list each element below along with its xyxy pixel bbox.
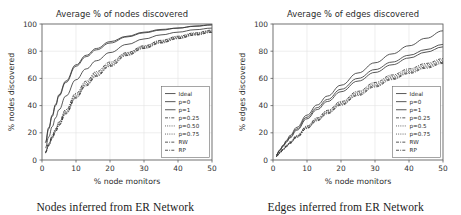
chart-title: Average % of edges discovered	[287, 9, 419, 19]
y-tick-label: 40	[258, 101, 268, 110]
legend-label: p=1	[409, 107, 421, 114]
x-tick-label: 0	[40, 164, 45, 173]
y-tick-label: 60	[28, 74, 38, 83]
y-tick-label: 40	[28, 101, 38, 110]
y-axis-label: % nodes discovered	[7, 53, 16, 131]
x-tick-label: 30	[370, 164, 380, 173]
chart-title: Average % of nodes discovered	[56, 9, 188, 19]
panel-caption: Nodes inferred from ER Network	[0, 201, 231, 213]
panel-edges: Average % of edges discovered 0102030405…	[231, 0, 461, 215]
x-tick-label: 50	[207, 164, 217, 173]
panel-caption: Edges inferred from ER Network	[231, 201, 461, 213]
legend-label: RW	[179, 139, 189, 145]
y-tick-label: 20	[28, 128, 38, 137]
legend-label: p=0.25	[409, 115, 430, 122]
y-tick-label: 20	[258, 128, 268, 137]
x-tick-label: 20	[336, 164, 346, 173]
legend-label: p=0	[409, 99, 421, 106]
y-tick-label: 100	[253, 20, 267, 29]
legend-label: p=0.75	[409, 131, 430, 138]
y-tick-label: 100	[23, 20, 37, 29]
chart-edges: Average % of edges discovered 0102030405…	[231, 0, 461, 190]
legend-label: p=1	[179, 107, 191, 114]
x-tick-label: 10	[71, 164, 81, 173]
legend-label: p=0	[179, 99, 191, 106]
legend-label: RW	[409, 139, 419, 145]
plot-region-edges: 01020304050020406080100 Idealp=0p=1p=0.2…	[253, 20, 447, 173]
legend-label: RP	[179, 147, 187, 153]
x-tick-label: 20	[105, 164, 115, 173]
legend[interactable]: Idealp=0p=1p=0.25p=0.50p=0.75RWRP	[162, 86, 210, 157]
legend-label: p=0.25	[179, 115, 200, 122]
y-axis-label: % edges discovered	[238, 53, 247, 131]
legend[interactable]: Idealp=0p=1p=0.25p=0.5p=0.75RWRP	[392, 86, 440, 157]
x-tick-label: 10	[302, 164, 312, 173]
x-axis-label: % node monitors	[94, 177, 160, 186]
legend-label: p=0.5	[409, 123, 427, 130]
chart-edges-svg: Average % of edges discovered 0102030405…	[231, 0, 461, 190]
y-tick-label: 80	[258, 47, 268, 56]
x-tick-label: 0	[270, 164, 275, 173]
plot-region-nodes: 01020304050020406080100 Idealp=0p=1p=0.2…	[23, 20, 217, 173]
legend-label: Ideal	[179, 91, 193, 97]
x-tick-label: 40	[404, 164, 414, 173]
y-tick-label: 80	[28, 47, 38, 56]
chart-nodes-svg: Average % of nodes discovered 0102030405…	[0, 0, 231, 190]
figure-two-panel-chart: Average % of nodes discovered 0102030405…	[0, 0, 461, 215]
y-tick-label: 0	[32, 156, 37, 165]
y-tick-label: 0	[263, 156, 268, 165]
y-tick-label: 60	[258, 74, 268, 83]
x-tick-label: 50	[438, 164, 448, 173]
legend-label: p=0.75	[179, 131, 200, 138]
x-axis-label: % node monitors	[324, 177, 390, 186]
chart-nodes: Average % of nodes discovered 0102030405…	[0, 0, 231, 190]
legend-label: p=0.50	[179, 123, 200, 130]
panel-nodes: Average % of nodes discovered 0102030405…	[0, 0, 231, 215]
x-tick-label: 30	[139, 164, 149, 173]
legend-label: Ideal	[409, 91, 423, 97]
x-tick-label: 40	[173, 164, 183, 173]
legend-label: RP	[409, 147, 417, 153]
